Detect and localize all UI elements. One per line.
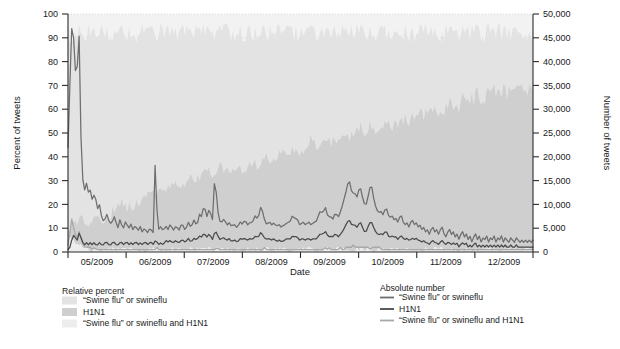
legend-relative-percent: Relative percent “Swine flu” or swineflu…: [62, 286, 208, 328]
legend-swatch-area: [62, 297, 77, 305]
x-tick-label: 07/2009: [197, 257, 230, 267]
left-tick-label: 90: [48, 33, 58, 43]
right-tick-label: 45,000: [543, 33, 571, 43]
right-tick-label: 40,000: [543, 57, 571, 67]
right-axis-title: Number of tweets: [602, 96, 613, 171]
x-tick-label: 11/2009: [430, 257, 462, 267]
left-axis-title: Percent of tweets: [11, 96, 22, 170]
x-tick-label: 10/2009: [371, 257, 404, 267]
right-tick-label: 30,000: [543, 104, 571, 114]
legend-swatch-area: [62, 320, 77, 328]
x-tick-label: 08/2009: [255, 257, 288, 267]
relative-percent-areas: [68, 24, 533, 252]
right-axis: 05,00010,00015,00020,00025,00030,00035,0…: [533, 9, 613, 257]
right-tick-label: 25,000: [543, 128, 571, 138]
x-axis-title: Date: [290, 266, 310, 277]
legend-left-item-label: “Swine flu” or swineflu and H1N1: [83, 318, 208, 328]
legend-right-item-label: “Swine flu” or swineflu: [399, 292, 483, 302]
x-tick-label: 05/2009: [81, 257, 114, 267]
legend-swatch-area: [62, 308, 77, 316]
x-tick-label: 09/2009: [313, 257, 346, 267]
legend-left-item-label: “Swine flu” or swineflu: [83, 295, 167, 305]
left-tick-label: 30: [48, 176, 58, 186]
left-tick-label: 10: [48, 223, 58, 233]
left-tick-label: 50: [48, 128, 58, 138]
right-tick-label: 20,000: [543, 152, 571, 162]
right-tick-label: 15,000: [543, 176, 571, 186]
x-tick-label: 12/2009: [488, 257, 521, 267]
right-tick-label: 0: [543, 247, 548, 257]
legend-right-item-label: H1N1: [399, 304, 421, 314]
left-tick-label: 60: [48, 104, 58, 114]
left-tick-label: 70: [48, 81, 58, 91]
left-tick-label: 100: [43, 9, 58, 19]
right-tick-label: 35,000: [543, 81, 571, 91]
left-tick-label: 20: [48, 200, 58, 210]
bottom-axis: 05/200906/200907/200908/200909/200910/20…: [68, 252, 533, 277]
left-tick-label: 40: [48, 152, 58, 162]
legend-absolute-number: Absolute number “Swine flu” or swinefluH…: [380, 283, 524, 325]
right-tick-label: 10,000: [543, 200, 571, 210]
right-tick-label: 50,000: [543, 9, 571, 19]
left-tick-label: 80: [48, 57, 58, 67]
chart-figure: 0102030405060708090100 Percent of tweets…: [0, 0, 620, 349]
tweet-volume-chart: 0102030405060708090100 Percent of tweets…: [0, 0, 620, 349]
legend-right-item-label: “Swine flu” or swineflu and H1N1: [399, 315, 524, 325]
right-tick-label: 5,000: [543, 223, 566, 233]
left-tick-label: 0: [53, 247, 58, 257]
left-axis: 0102030405060708090100 Percent of tweets: [11, 9, 68, 257]
legend-left-item-label: H1N1: [83, 307, 105, 317]
x-tick-label: 06/2009: [139, 257, 172, 267]
